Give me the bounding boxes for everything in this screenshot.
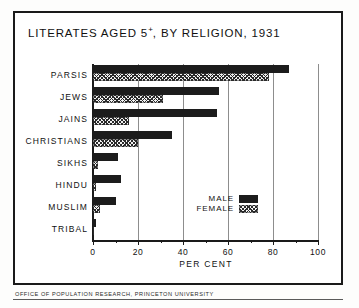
bar-tribal-female [93, 227, 94, 235]
credit-line: OFFICE OF POPULATION RESEARCH, PRINCETON… [15, 291, 214, 297]
legend-swatch-male-icon [239, 195, 258, 203]
bar-row: PARSIS [93, 64, 318, 86]
x-minor-tick-90 [296, 240, 297, 243]
category-label-jews: JEWS [60, 93, 88, 102]
x-tick-80 [273, 240, 274, 245]
legend-label-female: FEMALE [197, 204, 234, 214]
bar-jains-female [93, 117, 129, 125]
bar-parsis-female [93, 73, 269, 81]
x-tick-label-80: 80 [268, 247, 279, 257]
x-tick-40 [183, 240, 184, 245]
bar-jews-female [93, 95, 163, 103]
bar-row: TRIBAL [93, 218, 318, 240]
x-tick-60 [228, 240, 229, 245]
bar-muslim-female [93, 205, 100, 213]
category-label-christians: CHRISTIANS [26, 137, 88, 146]
bar-christians-male [93, 131, 172, 139]
x-minor-tick-50 [206, 240, 207, 243]
category-label-parsis: PARSIS [51, 71, 88, 80]
x-tick-100 [318, 240, 319, 245]
bar-sikhs-female [93, 161, 98, 169]
gridline-100 [318, 64, 319, 240]
x-tick-label-20: 20 [133, 247, 144, 257]
x-tick-20 [138, 240, 139, 245]
chart-figure: LITERATES AGED 5+, BY RELIGION, 1931 020… [0, 0, 359, 308]
category-label-jains: JAINS [58, 115, 88, 124]
bar-tribal-male [93, 219, 96, 227]
x-tick-label-0: 0 [90, 247, 95, 257]
bar-row: HINDU [93, 174, 318, 196]
category-label-sikhs: SIKHS [57, 159, 88, 168]
chart-title: LITERATES AGED 5+, BY RELIGION, 1931 [28, 25, 281, 39]
credit-divider [13, 299, 343, 300]
bar-muslim-male [93, 197, 116, 205]
legend-label-male: MALE [209, 194, 234, 204]
bar-parsis-male [93, 65, 289, 73]
bar-hindu-male [93, 175, 121, 183]
bar-jains-male [93, 109, 217, 117]
category-label-hindu: HINDU [56, 181, 88, 190]
bar-sikhs-male [93, 153, 118, 161]
chart-title-rest: , BY RELIGION, 1931 [153, 27, 281, 39]
bar-row: SIKHS [93, 152, 318, 174]
bar-row: JEWS [93, 86, 318, 108]
bar-jews-male [93, 87, 219, 95]
bar-row: JAINS [93, 108, 318, 130]
x-minor-tick-30 [161, 240, 162, 243]
legend-swatch-female-icon [239, 205, 258, 213]
x-minor-tick-70 [251, 240, 252, 243]
category-label-muslim: MUSLIM [48, 203, 88, 212]
category-label-tribal: TRIBAL [52, 225, 88, 234]
bar-christians-female [93, 139, 138, 147]
chart-title-main: LITERATES AGED 5 [28, 27, 148, 39]
x-minor-tick-10 [116, 240, 117, 243]
x-axis-title: PER CENT [179, 259, 232, 269]
x-tick-0 [93, 240, 94, 245]
bar-row: CHRISTIANS [93, 130, 318, 152]
x-tick-label-40: 40 [178, 247, 189, 257]
x-tick-label-60: 60 [223, 247, 234, 257]
x-tick-label-100: 100 [310, 247, 326, 257]
bar-hindu-female [93, 183, 96, 191]
